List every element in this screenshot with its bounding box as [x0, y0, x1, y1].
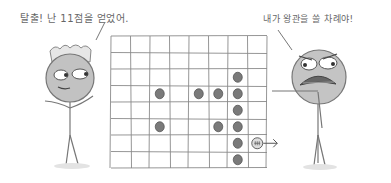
board-dot [233, 105, 242, 115]
board-dot [194, 89, 203, 99]
board-dot [233, 72, 242, 82]
arrow-right-icon [263, 139, 277, 147]
board-dot [233, 138, 242, 148]
game-board-grid [110, 36, 267, 169]
left-speech-pointer [96, 22, 105, 40]
snake-head-icon [252, 138, 278, 149]
left-character-crowned [45, 45, 94, 169]
board-dot [233, 122, 242, 132]
board-dot [155, 89, 164, 99]
comic-scene: 탈출! 난 11점을 얻었어. 내가 왕관을 쓸 차례야! [0, 0, 391, 183]
left-head [46, 54, 94, 102]
board-dot [233, 89, 242, 99]
board-dot [214, 89, 223, 99]
board-dot [233, 155, 242, 165]
right-character-angry [272, 50, 346, 170]
comic-drawing [0, 0, 391, 183]
right-speech-pointer [278, 30, 292, 50]
board-dot [155, 122, 164, 132]
board-dot [214, 122, 223, 132]
